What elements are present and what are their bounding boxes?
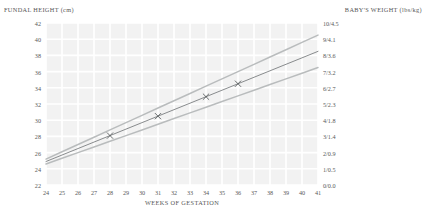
y-tick-right: 10/4.5 xyxy=(323,20,339,27)
y-tick-left: 26 xyxy=(35,149,41,156)
plot-area xyxy=(46,23,318,185)
x-tick: 33 xyxy=(187,189,193,196)
y-tick-right: 4/1.8 xyxy=(323,117,336,124)
y-tick-right: 1/0.5 xyxy=(323,165,336,172)
series-lower-bound xyxy=(46,68,318,164)
x-tick: 37 xyxy=(251,189,257,196)
right-axis-title: BABY'S WEIGHT (lbs/kg) xyxy=(345,6,422,13)
x-tick: 40 xyxy=(299,189,305,196)
left-axis-title: FUNDAL HEIGHT (cm) xyxy=(4,6,74,13)
x-tick: 30 xyxy=(139,189,145,196)
y-tick-left: 30 xyxy=(35,117,41,124)
y-tick-left: 28 xyxy=(35,133,41,140)
x-tick: 24 xyxy=(43,189,49,196)
y-tick-left: 40 xyxy=(35,36,41,43)
x-tick: 29 xyxy=(123,189,129,196)
x-tick: 36 xyxy=(235,189,241,196)
y-tick-left: 32 xyxy=(35,101,41,108)
y-tick-right: 8/3.6 xyxy=(323,52,336,59)
y-tick-right: 0/0.0 xyxy=(323,182,336,189)
y-tick-left: 38 xyxy=(35,52,41,59)
measurement-marker[interactable] xyxy=(203,94,209,100)
x-tick: 28 xyxy=(107,189,113,196)
fundal-height-chart: FUNDAL HEIGHT (cm) BABY'S WEIGHT (lbs/kg… xyxy=(0,0,426,218)
x-tick: 25 xyxy=(59,189,65,196)
y-tick-right: 9/4.1 xyxy=(323,36,336,43)
y-tick-right: 6/2.7 xyxy=(323,84,336,91)
x-axis-title: WEEKS OF GESTATION xyxy=(46,199,318,206)
y-tick-left: 22 xyxy=(35,182,41,189)
x-tick: 32 xyxy=(171,189,177,196)
x-tick: 39 xyxy=(283,189,289,196)
y-tick-left: 36 xyxy=(35,68,41,75)
x-tick: 34 xyxy=(203,189,209,196)
x-tick: 41 xyxy=(315,189,321,196)
y-axis-left-ticks: 2224262830323436384042 xyxy=(22,23,41,185)
x-tick: 26 xyxy=(75,189,81,196)
x-tick: 38 xyxy=(267,189,273,196)
x-tick: 31 xyxy=(155,189,161,196)
x-tick: 35 xyxy=(219,189,225,196)
y-tick-right: 5/2.3 xyxy=(323,101,336,108)
series-lines xyxy=(46,23,318,185)
y-tick-left: 24 xyxy=(35,165,41,172)
y-tick-left: 34 xyxy=(35,84,41,91)
measurement-marker[interactable] xyxy=(155,113,161,119)
measurement-marker[interactable] xyxy=(107,132,113,138)
series-median xyxy=(46,51,318,161)
y-tick-right: 3/1.4 xyxy=(323,133,336,140)
series-upper-bound xyxy=(46,35,318,159)
y-tick-right: 7/3.2 xyxy=(323,68,336,75)
y-tick-right: 2/0.9 xyxy=(323,149,336,156)
measurement-marker[interactable] xyxy=(235,81,241,87)
x-tick: 27 xyxy=(91,189,97,196)
y-tick-left: 42 xyxy=(35,20,41,27)
y-axis-right-ticks: 0/0.01/0.52/0.93/1.44/1.85/2.36/2.77/3.2… xyxy=(323,23,383,185)
